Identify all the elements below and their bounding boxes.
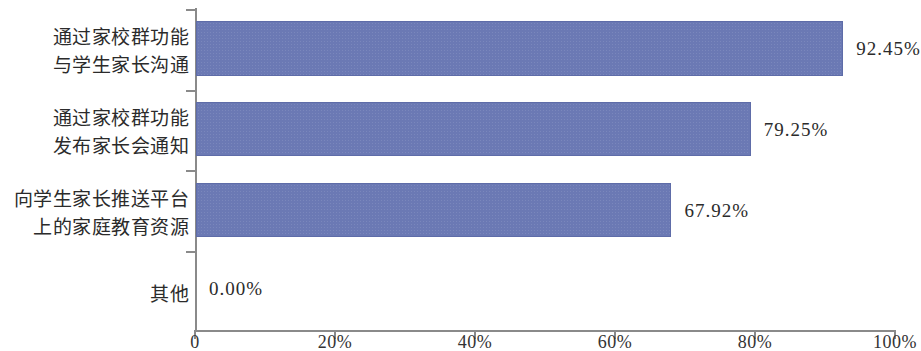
y-axis-tick-2 xyxy=(186,170,196,172)
y-axis-tick-3 xyxy=(186,251,196,253)
value-label-1: 79.25% xyxy=(764,119,829,141)
category-label-3: 其他 xyxy=(5,281,195,309)
x-axis-tick-label-0: 0 xyxy=(190,332,200,351)
category-label-0: 通过家校群功能 与学生家长沟通 xyxy=(5,24,195,80)
category-label-2: 向学生家长推送平台 上的家庭教育资源 xyxy=(5,186,195,242)
x-axis-tick-label-4: 80% xyxy=(738,332,773,351)
x-axis-tick-label-3: 60% xyxy=(598,332,633,351)
value-label-3: 0.00% xyxy=(209,278,263,300)
y-axis-tick-1 xyxy=(186,90,196,92)
bar-1 xyxy=(196,102,751,156)
x-axis-tick-label-2: 40% xyxy=(458,332,493,351)
x-axis-tick-label-5: 100% xyxy=(873,332,917,351)
x-axis-tick-label-1: 20% xyxy=(318,332,353,351)
y-axis-tick-0 xyxy=(186,9,196,11)
value-label-0: 92.45% xyxy=(856,38,921,60)
value-label-2: 67.92% xyxy=(684,200,749,222)
category-label-1: 通过家校群功能 发布家长会通知 xyxy=(5,105,195,161)
bar-2 xyxy=(196,183,671,237)
bar-0 xyxy=(196,21,843,76)
x-axis-line xyxy=(195,330,896,332)
